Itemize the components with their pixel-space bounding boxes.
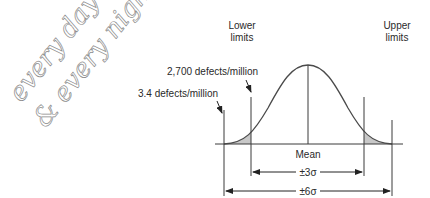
upper-limits-label-2: limits bbox=[386, 32, 409, 43]
lower-limits-label-2: limits bbox=[231, 32, 254, 43]
left-tail-shade bbox=[224, 133, 251, 144]
defects-3sigma-label: 2,700 defects/million bbox=[167, 66, 258, 77]
defects-6sigma-label: 3.4 defects/million bbox=[138, 88, 218, 99]
six-sigma-diagram: every day & every night...~ Lower limits… bbox=[0, 0, 430, 198]
defects-6sigma-arrow bbox=[217, 101, 222, 113]
upper-limits-label: Upper bbox=[383, 20, 411, 31]
handwriting: every day & every night...~ bbox=[0, 0, 191, 132]
range-3sigma-label: ±3σ bbox=[299, 167, 317, 178]
lower-limits-label: Lower bbox=[228, 20, 256, 31]
defects-3sigma-arrow bbox=[246, 80, 251, 92]
range-6sigma-label: ±6σ bbox=[299, 186, 317, 197]
mean-label: Mean bbox=[295, 149, 320, 160]
